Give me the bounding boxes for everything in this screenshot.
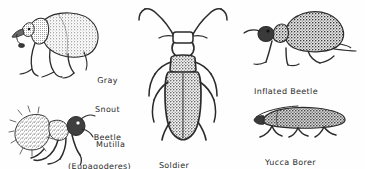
label-soldier-beetle: Soldier Beetle(Lytta) bbox=[146, 142, 202, 169]
label-yucca-borer: Yucca Borer bbox=[265, 139, 316, 169]
insect-illustration-plate: Gray Snout Beetle (Eupagoderes) bbox=[0, 0, 365, 169]
label-line: Inflated Beetle bbox=[254, 87, 318, 97]
label-line: Mutilla bbox=[96, 140, 125, 150]
label-line: Gray bbox=[84, 76, 131, 86]
figure-mutilla bbox=[10, 104, 106, 166]
label-line: Yucca Borer bbox=[265, 158, 316, 168]
label-mutilla: Mutilla bbox=[96, 121, 125, 169]
figure-inflated-beetle bbox=[252, 4, 360, 66]
figure-yucca-borer bbox=[250, 104, 354, 140]
figure-soldier-beetle bbox=[137, 2, 229, 144]
label-line: Soldier bbox=[146, 161, 202, 169]
